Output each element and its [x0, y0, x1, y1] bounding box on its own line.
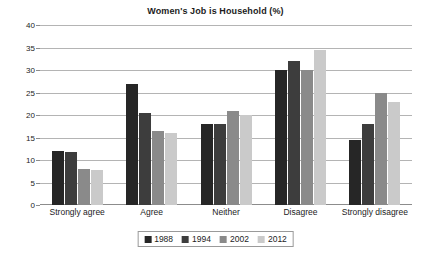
x-axis-tick-label: Strongly agree [50, 207, 105, 217]
y-axis-tick-label: 30 [26, 66, 35, 75]
bar-group: Agree [114, 25, 188, 205]
bar-1988-neither [201, 124, 213, 205]
legend-item-2012[interactable]: 2012 [258, 234, 287, 244]
bar-2012-disagree [314, 50, 326, 205]
y-axis-tick-mark [36, 205, 40, 206]
legend-swatch-icon [182, 236, 189, 243]
plot-area: 0510152025303540 Strongly agreeAgreeNeit… [40, 25, 412, 205]
bar-1994-neither [214, 124, 226, 205]
bar-1994-disagree [288, 61, 300, 205]
bar-1994-strongly-disagree [362, 124, 374, 205]
bar-1988-strongly-agree [52, 151, 64, 205]
bar-1988-disagree [275, 70, 287, 205]
y-axis-tick-label: 0 [31, 201, 35, 210]
y-axis-tick-label: 40 [26, 21, 35, 30]
bar-group: Strongly agree [40, 25, 114, 205]
bar-1988-strongly-disagree [349, 140, 361, 205]
y-axis-tick-label: 25 [26, 88, 35, 97]
bar-group: Disagree [263, 25, 337, 205]
legend-item-1994[interactable]: 1994 [182, 234, 211, 244]
x-axis-tick-label: Strongly disagree [342, 207, 408, 217]
bar-2012-strongly-agree [91, 170, 103, 205]
y-axis-tick-label: 15 [26, 133, 35, 142]
bar-2012-neither [240, 115, 252, 205]
y-axis-tick-label: 35 [26, 43, 35, 52]
bar-1988-agree [126, 84, 138, 206]
bar-2002-strongly-agree [78, 169, 90, 205]
legend-swatch-icon [144, 236, 151, 243]
bar-2012-strongly-disagree [388, 102, 400, 206]
x-axis-tick-label: Agree [140, 207, 163, 217]
bar-2012-agree [165, 133, 177, 205]
y-axis-tick-label: 10 [26, 156, 35, 165]
bar-chart: Women's Job is Household (%) 05101520253… [0, 0, 431, 255]
legend-label: 1994 [192, 234, 211, 244]
legend-item-1988[interactable]: 1988 [144, 234, 173, 244]
legend-label: 2012 [268, 234, 287, 244]
x-axis-tick-label: Disagree [283, 207, 317, 217]
bar-2002-neither [227, 111, 239, 206]
bar-1994-strongly-agree [65, 152, 77, 205]
legend-label: 1988 [154, 234, 173, 244]
bar-group: Neither [189, 25, 263, 205]
chart-legend: 1988199420022012 [137, 231, 294, 247]
bar-2002-disagree [301, 70, 313, 205]
chart-title: Women's Job is Household (%) [0, 6, 431, 16]
y-axis-tick-label: 5 [31, 178, 35, 187]
bar-group: Strongly disagree [338, 25, 412, 205]
x-axis-tick-label: Neither [212, 207, 239, 217]
y-axis-tick-label: 20 [26, 111, 35, 120]
bar-groups: Strongly agreeAgreeNeitherDisagreeStrong… [40, 25, 412, 205]
bar-1994-agree [139, 113, 151, 205]
legend-label: 2002 [230, 234, 249, 244]
legend-swatch-icon [258, 236, 265, 243]
bar-2002-agree [152, 131, 164, 205]
legend-item-2002[interactable]: 2002 [220, 234, 249, 244]
bar-2002-strongly-disagree [375, 93, 387, 206]
legend-swatch-icon [220, 236, 227, 243]
